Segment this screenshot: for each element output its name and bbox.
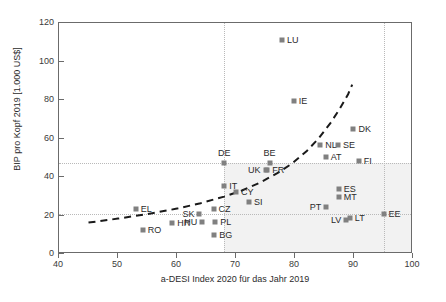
y-axis-tick-label: 80 [34, 94, 59, 104]
x-axis-tick-label: 100 [404, 259, 419, 269]
data-point-label-fi: FI [364, 156, 372, 166]
x-axis-tick [58, 253, 59, 258]
data-point-ee [381, 211, 386, 216]
data-point-nl [318, 143, 323, 148]
data-point-label-ie: IE [299, 96, 308, 106]
plot-area: ELROHRSKHUCZPLBGDEITCYSIUKFRBELUIENLATPT… [58, 22, 412, 253]
x-axis-tick-label: 50 [112, 259, 122, 269]
data-point-cz [211, 206, 216, 211]
data-point-hr [170, 221, 175, 226]
scatter-chart: ELROHRSKHUCZPLBGDEITCYSIUKFRBELUIENLATPT… [0, 0, 446, 302]
data-point-label-fr: FR [272, 165, 284, 175]
y-axis-tick-label: 100 [34, 56, 59, 66]
data-point-si [246, 200, 251, 205]
y-axis-tick-label: 60 [34, 133, 59, 143]
data-point-ie [291, 98, 296, 103]
y-axis-tick-label: 20 [34, 210, 59, 220]
data-point-pl [213, 219, 218, 224]
data-point-label-pl: PL [220, 217, 231, 227]
data-point-be [267, 160, 272, 165]
data-point-label-be: BE [264, 148, 276, 158]
x-axis-tick-label: 90 [348, 259, 358, 269]
data-point-mt [336, 195, 341, 200]
data-point-label-at: AT [331, 152, 342, 162]
data-point-label-mt: MT [344, 192, 357, 202]
data-point-label-lt: LT [355, 213, 365, 223]
data-point-label-cy: CY [241, 187, 254, 197]
data-point-lu [280, 38, 285, 43]
data-point-es [336, 186, 341, 191]
x-axis-tick [235, 253, 236, 258]
x-axis-tick-label: 70 [230, 259, 240, 269]
data-point-label-pt: PT [310, 202, 322, 212]
data-point-sk [197, 211, 202, 216]
data-point-label-bg: BG [219, 230, 232, 240]
data-point-label-ro: RO [148, 225, 162, 235]
data-point-cy [234, 190, 239, 195]
data-point-label-lv: LV [331, 215, 341, 225]
data-point-label-lu: LU [287, 35, 299, 45]
data-point-dk [351, 126, 356, 131]
x-axis-title: a-DESI Index 2020 für das Jahr 2019 [58, 274, 412, 284]
data-point-de [222, 160, 227, 165]
data-point-label-si: SI [254, 197, 263, 207]
data-point-label-ee: EE [389, 209, 401, 219]
data-point-fr [265, 168, 270, 173]
data-point-it [222, 183, 227, 188]
data-point-bg [212, 233, 217, 238]
data-point-hu [200, 219, 205, 224]
y-axis-title: BIP pro Kopf 2019 [1.000 US$] [12, 9, 22, 209]
x-axis-tick [117, 253, 118, 258]
x-axis-tick [412, 253, 413, 258]
data-point-el [133, 206, 138, 211]
data-point-label-se: SE [343, 140, 355, 150]
y-axis-title-wrap: BIP pro Kopf 2019 [1.000 US$] [0, 0, 1, 1]
y-axis-tick-label: 40 [34, 171, 59, 181]
data-point-se [336, 143, 341, 148]
x-axis-tick [176, 253, 177, 258]
data-point-label-de: DE [218, 148, 231, 158]
data-point-at [323, 154, 328, 159]
data-point-pt [324, 204, 329, 209]
x-axis-tick [294, 253, 295, 258]
reference-line-vertical [384, 23, 385, 253]
data-point-label-dk: DK [358, 124, 371, 134]
y-axis-tick-label: 0 [34, 248, 59, 258]
data-point-lt [347, 216, 352, 221]
y-axis-tick-label: 120 [34, 17, 59, 27]
x-axis-tick-label: 80 [289, 259, 299, 269]
data-point-fi [356, 158, 361, 163]
data-point-ro [140, 227, 145, 232]
data-point-label-cz: CZ [219, 204, 231, 214]
x-axis-tick-label: 60 [171, 259, 181, 269]
data-point-label-hu: HU [184, 217, 197, 227]
data-point-label-uk: UK [248, 165, 261, 175]
data-point-label-el: EL [141, 204, 152, 214]
x-axis-tick-label: 40 [53, 259, 63, 269]
x-axis-tick [353, 253, 354, 258]
